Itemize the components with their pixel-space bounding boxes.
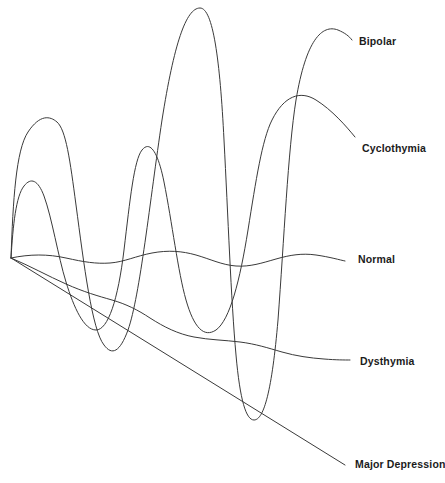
curve-label-major-depression: Major Depression bbox=[355, 459, 445, 470]
curve-major-depression bbox=[11, 258, 345, 465]
mood-spectrum-diagram: Bipolar Cyclothymia Normal Dysthymia Maj… bbox=[0, 0, 445, 483]
curve-label-dysthymia: Dysthymia bbox=[360, 356, 414, 367]
curve-label-normal: Normal bbox=[358, 254, 395, 265]
curve-label-cyclothymia: Cyclothymia bbox=[362, 143, 426, 154]
mood-curves-canvas bbox=[0, 0, 445, 483]
curve-bipolar bbox=[11, 8, 352, 420]
curve-label-bipolar: Bipolar bbox=[359, 36, 396, 47]
